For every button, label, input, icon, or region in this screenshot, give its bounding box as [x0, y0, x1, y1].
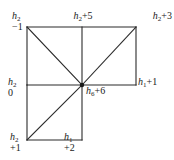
node-symbol-mid-left: h2: [8, 76, 26, 87]
node-symbol-top-left: h2: [12, 10, 38, 21]
node-value-bottom-left: +1: [10, 142, 30, 153]
edge-diagonal-upper-left: [27, 27, 82, 85]
node-value-top-right: +3: [161, 10, 172, 21]
node-label-top-center: h2+5: [57, 10, 109, 21]
node-value-mid-right: +1: [147, 76, 158, 87]
node-symbol-bottom-left: h2: [10, 131, 30, 142]
node-label-top-right: h2+3: [120, 10, 172, 21]
node-symbol-center: h6: [86, 85, 95, 96]
node-symbol-top-center: h2: [73, 10, 82, 21]
node-label-top-left: h2 −1: [12, 10, 38, 32]
node-value-top-center: +5: [82, 10, 93, 21]
node-label-mid-left: h2 0: [8, 76, 26, 98]
node-value-mid-left: 0: [8, 87, 26, 98]
node-label-mid-right: h1+1: [138, 76, 174, 87]
node-value-bottom-center: +2: [64, 142, 90, 153]
center-node-dot: [80, 83, 84, 87]
edge-diagonal-upper-right: [82, 27, 136, 85]
node-value-top-left: −1: [12, 21, 38, 32]
node-label-bottom-left: h2 +1: [10, 131, 30, 153]
node-symbol-bottom-center: h1: [64, 131, 90, 142]
node-value-center: +6: [95, 85, 106, 96]
node-label-bottom-center: h1 +2: [64, 131, 90, 153]
node-symbol-mid-right: h1: [138, 76, 147, 87]
node-label-center: h6+6: [86, 85, 144, 96]
mesh-diagram-figure: h2 −1 h2+5 h2+3 h2 0 h6+6 h1+1 h2 +1 h1 …: [0, 0, 174, 160]
